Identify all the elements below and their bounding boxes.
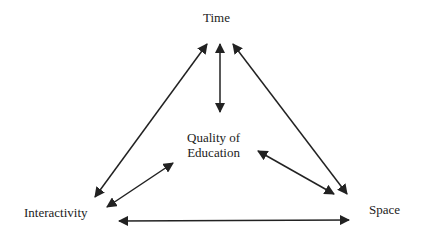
arrow-time-space — [233, 44, 347, 194]
arrow-quality-space — [258, 151, 334, 194]
arrow-quality-interactivity — [107, 163, 173, 207]
node-space-label: Space — [369, 202, 400, 217]
node-space: Space — [369, 202, 400, 217]
node-quality-label-line2: Education — [187, 145, 240, 160]
node-quality-of-education: Quality of Education — [187, 130, 240, 160]
node-interactivity: Interactivity — [24, 205, 88, 220]
arrow-interactivity-space — [119, 220, 349, 221]
node-quality-label-line1: Quality of — [187, 130, 240, 145]
node-time: Time — [203, 10, 230, 25]
arrow-time-interactivity — [95, 44, 207, 197]
node-interactivity-label: Interactivity — [24, 205, 88, 220]
node-time-label: Time — [203, 10, 230, 25]
